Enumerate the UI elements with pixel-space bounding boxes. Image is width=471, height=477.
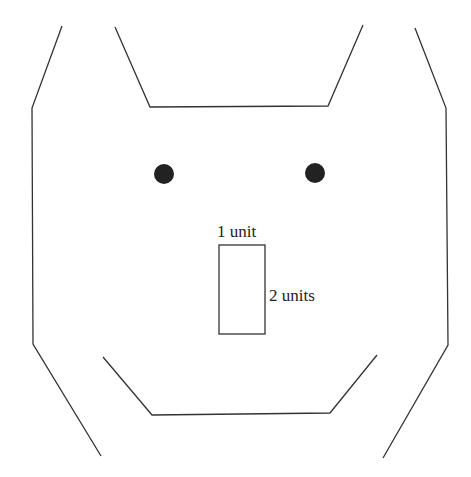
face-diagram: 1 unit 2 units — [0, 0, 471, 477]
head-top-outline — [115, 25, 363, 107]
left-outline — [32, 26, 101, 456]
width-label: 1 unit — [217, 222, 256, 241]
left-eye — [154, 164, 174, 184]
height-label: 2 units — [269, 286, 315, 305]
mouth-outline — [103, 355, 377, 415]
right-eye — [305, 163, 325, 183]
right-outline — [383, 28, 448, 458]
nose-rectangle — [219, 245, 265, 334]
